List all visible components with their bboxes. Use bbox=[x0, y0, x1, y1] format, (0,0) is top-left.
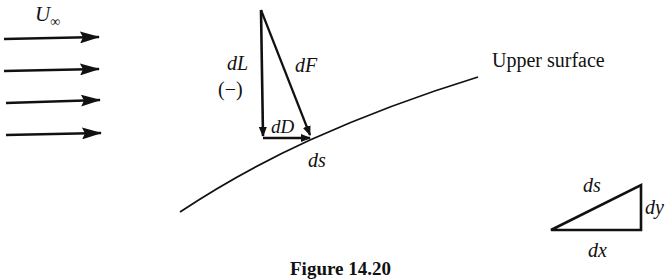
geometry-hypotenuse-label: ds bbox=[583, 175, 601, 195]
freestream-subscript: ∞ bbox=[50, 14, 60, 29]
lift-vector bbox=[261, 10, 263, 136]
freestream-arrow-3 bbox=[6, 100, 100, 103]
surface-element-label: ds bbox=[308, 150, 326, 170]
lift-label: dL bbox=[227, 53, 248, 73]
freestream-arrow-2 bbox=[4, 69, 99, 71]
lift-sign-label: (−) bbox=[218, 79, 243, 99]
freestream-arrow-1 bbox=[4, 37, 99, 39]
freestream-symbol: U bbox=[35, 2, 50, 26]
freestream-arrows bbox=[4, 37, 101, 135]
freestream-arrow-4 bbox=[6, 133, 101, 135]
upper-surface-label: Upper surface bbox=[492, 50, 605, 70]
drag-label: dD bbox=[271, 117, 294, 136]
geometry-horizontal-label: dx bbox=[588, 240, 607, 260]
freestream-velocity-label: U∞ bbox=[35, 4, 60, 25]
figure-caption: Figure 14.20 bbox=[290, 259, 391, 278]
resultant-force-label: dF bbox=[295, 55, 317, 75]
geometry-vertical-label: dy bbox=[645, 197, 664, 217]
